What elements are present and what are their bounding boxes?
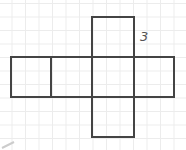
face-right [134,57,174,97]
face-left-1 [11,57,51,97]
grid-paper: 3 [0,0,186,150]
face-left-2 [51,57,92,97]
side-label: 3 [140,29,148,44]
cube-net [0,0,186,150]
face-bottom [92,97,134,137]
face-center [92,57,134,97]
pencil-mark [2,142,14,148]
face-top [92,17,134,57]
